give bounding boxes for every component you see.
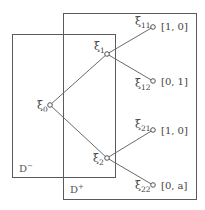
label-xi11: ξ11 — [135, 15, 151, 30]
edge-xi0-xi1 — [50, 54, 107, 105]
node-xi22 — [151, 183, 156, 188]
label-xi21: ξ21 — [135, 118, 151, 133]
tree-diagram: ξ0 ξ1 ξ2 ξ11 ξ12 ξ21 ξ22 [1, 0] [0, 1] [… — [0, 0, 205, 210]
edge-xi1-xi11 — [107, 27, 153, 54]
edge-xi0-xi2 — [50, 105, 107, 158]
node-xi0 — [48, 103, 53, 108]
label-xi1: ξ1 — [94, 40, 105, 55]
value-xi22: [0, a] — [161, 180, 188, 191]
region-label-d-plus: D+ — [70, 183, 84, 195]
node-xi2 — [105, 156, 110, 161]
value-xi21: [1, 0] — [161, 125, 188, 136]
label-xi0: ξ0 — [37, 99, 48, 114]
edge-xi2-xi22 — [107, 158, 153, 185]
region-label-d-minus: D− — [19, 162, 33, 174]
label-xi22: ξ22 — [135, 179, 151, 194]
edge-xi2-xi21 — [107, 130, 153, 158]
value-xi11: [1, 0] — [161, 21, 188, 32]
node-xi21 — [151, 128, 156, 133]
value-xi12: [0, 1] — [161, 76, 188, 87]
node-xi12 — [151, 79, 156, 84]
node-xi11 — [151, 25, 156, 30]
label-xi12: ξ12 — [135, 77, 151, 92]
node-xi1 — [105, 52, 110, 57]
edge-xi1-xi12 — [107, 54, 153, 81]
